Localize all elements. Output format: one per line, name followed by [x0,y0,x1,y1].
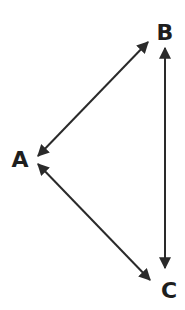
triangle-diagram: A B C [0,0,185,310]
node-c-label: C [161,278,177,303]
node-a-label: A [11,147,28,172]
node-b-label: B [157,20,174,45]
edge-a-c-bidirectional-arrow [38,164,150,280]
edge-a-b-bidirectional-arrow [38,42,148,156]
